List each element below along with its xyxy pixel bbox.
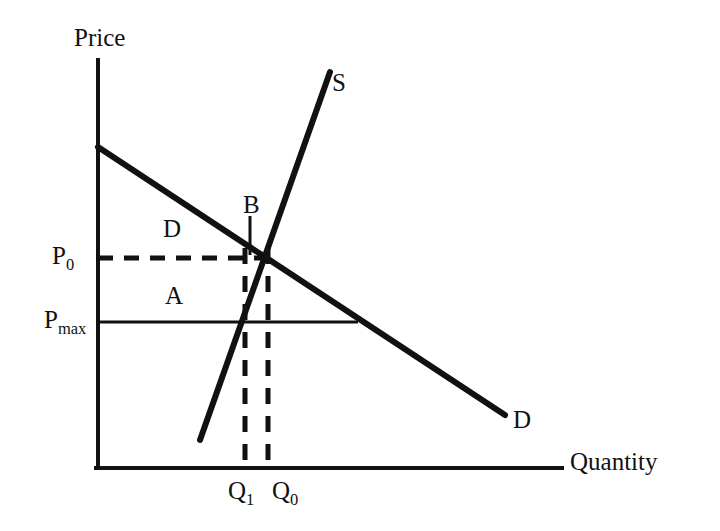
region-label-b: B <box>243 192 260 217</box>
supply-curve-label: S <box>332 70 346 95</box>
price-tick-pmax: Pmax <box>44 307 86 332</box>
x-axis-label: Quantity <box>570 449 658 474</box>
price-tick-p0-base: P <box>52 242 66 269</box>
region-label-a: A <box>165 283 183 308</box>
y-axis-label: Price <box>74 25 125 50</box>
region-label-d: D <box>163 216 181 241</box>
quantity-tick-q0: Q0 <box>272 478 298 503</box>
price-tick-p0-subscript: 0 <box>66 255 74 274</box>
price-tick-p0: P0 <box>52 243 74 268</box>
price-tick-pmax-base: P <box>44 306 58 333</box>
quantity-tick-q1: Q1 <box>228 478 254 503</box>
supply-demand-diagram: Price Quantity P0 Pmax Q1 Q0 S D D A B <box>0 0 720 531</box>
price-tick-pmax-subscript: max <box>58 319 86 338</box>
quantity-tick-q0-subscript: 0 <box>290 490 298 509</box>
demand-curve-label: D <box>513 407 531 432</box>
demand-curve <box>98 147 505 415</box>
quantity-tick-q1-subscript: 1 <box>246 490 254 509</box>
quantity-tick-q1-base: Q <box>228 477 246 504</box>
quantity-tick-q0-base: Q <box>272 477 290 504</box>
